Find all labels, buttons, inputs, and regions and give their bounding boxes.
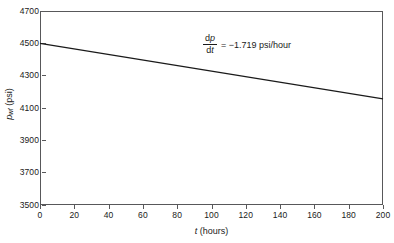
x-tick-mark xyxy=(109,205,110,209)
x-tick-mark xyxy=(74,205,75,209)
y-tick-mark xyxy=(42,108,46,109)
x-tick-mark xyxy=(177,205,178,209)
x-tick-mark xyxy=(280,205,281,209)
x-tick-mark xyxy=(143,205,144,209)
chart-figure: 3500370039004100430045004700 02040608010… xyxy=(0,0,394,243)
x-axis-units: (hours) xyxy=(200,226,229,236)
y-tick-label: 3500 xyxy=(20,201,42,210)
x-tick-label: 200 xyxy=(363,210,394,220)
y-tick-mark xyxy=(42,75,46,76)
y-tick-mark xyxy=(42,205,46,206)
y-tick-mark xyxy=(42,172,46,173)
x-tick-mark xyxy=(212,205,213,209)
x-tick-mark xyxy=(383,205,384,209)
y-axis-title: pwf (psi) xyxy=(4,54,16,154)
y-tick-label: 3900 xyxy=(20,136,42,145)
y-tick-mark xyxy=(42,11,46,12)
slope-annotation: dp dt = −1.719 psi/hour xyxy=(203,34,291,55)
y-tick-label: 4300 xyxy=(20,71,42,80)
y-tick-label: 4700 xyxy=(20,7,42,16)
y-tick-label: 4500 xyxy=(20,39,42,48)
x-axis-title: t (hours) xyxy=(40,226,383,237)
y-tick-mark xyxy=(42,140,46,141)
y-tick-label: 4100 xyxy=(20,104,42,113)
fraction-numerator: dp xyxy=(203,34,217,44)
x-tick-mark xyxy=(314,205,315,209)
y-axis-subscript: wf xyxy=(7,108,14,115)
x-tick-mark xyxy=(40,205,41,209)
fraction-denominator: dt xyxy=(204,45,216,55)
y-axis-symbol: p xyxy=(4,115,14,120)
derivative-fraction: dp dt xyxy=(203,34,217,55)
x-tick-mark xyxy=(246,205,247,209)
x-tick-mark xyxy=(349,205,350,209)
y-tick-mark xyxy=(42,43,46,44)
slope-value-text: = −1.719 psi/hour xyxy=(221,40,291,50)
y-axis-units: (psi) xyxy=(4,88,14,106)
x-axis-symbol: t xyxy=(195,226,198,236)
y-tick-label: 3700 xyxy=(20,168,42,177)
